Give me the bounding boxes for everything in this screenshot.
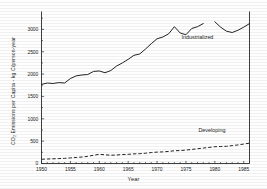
y-tick-label: 2000 [27, 72, 38, 77]
series-line-industrialized [42, 24, 204, 85]
series-annotations: IndustrializedDeveloping [182, 34, 226, 133]
x-tick-label: 1960 [94, 167, 105, 172]
annotation-developing: Developing [198, 127, 225, 133]
x-tick-label: 1970 [152, 167, 163, 172]
x-axis-title: Year [0, 176, 267, 182]
x-tick-labels: 19501955196019651970197519801985 [36, 167, 249, 172]
x-tick-label: 1950 [36, 167, 47, 172]
y-tick-label: 500 [30, 139, 38, 144]
x-tick-label: 1975 [180, 167, 191, 172]
x-tick-label: 1955 [65, 167, 76, 172]
series-line-industrialized [215, 22, 250, 33]
axes [42, 12, 250, 164]
y-tick-label: 1500 [27, 94, 38, 99]
y-tick-labels: 050010001500200025003000 [27, 27, 38, 166]
y-tick-label: 1000 [27, 117, 38, 122]
y-tick-label: 0 [36, 161, 39, 166]
y-tick-label: 2500 [27, 50, 38, 55]
series-line-developing [42, 143, 250, 159]
annotation-industrialized: Industrialized [182, 34, 214, 40]
y-axis-title: CO₂ Emissions per Capita - kg C/person-y… [10, 26, 16, 156]
figure-container: 050010001500200025003000 195019551960196… [0, 0, 267, 189]
co2-emissions-line-chart: 050010001500200025003000 195019551960196… [0, 0, 267, 189]
tick-marks [42, 18, 250, 163]
data-series [42, 22, 250, 159]
x-tick-label: 1985 [238, 167, 249, 172]
x-tick-label: 1980 [209, 167, 220, 172]
x-tick-label: 1965 [123, 167, 134, 172]
y-tick-label: 3000 [27, 27, 38, 32]
